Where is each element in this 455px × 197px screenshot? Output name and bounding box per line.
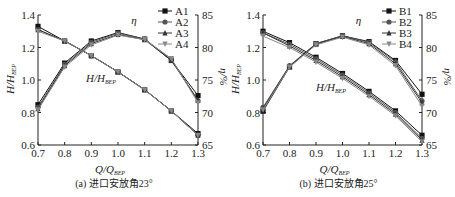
y-right-tick-label: 85 xyxy=(202,9,214,21)
y-left-tick-label: 1.4 xyxy=(21,9,35,21)
circle-marker xyxy=(162,19,167,24)
y-left-tick-label: 1.4 xyxy=(246,9,260,21)
panel-caption: (a) 进口安放角23° xyxy=(75,177,153,190)
x-tick-label: 1.1 xyxy=(138,147,152,159)
triangle-down-marker xyxy=(195,100,200,106)
y-left-tick-label: 1.0 xyxy=(21,74,35,86)
chart-panel-a: 0.70.80.91.01.11.21.30.60.81.01.21.46570… xyxy=(4,5,230,190)
y-left-tick-label: 0.8 xyxy=(21,107,35,119)
square-marker xyxy=(162,8,167,13)
x-tick-label: 1.0 xyxy=(336,147,350,159)
chart-panel-b: 0.70.80.91.01.11.21.30.60.81.01.21.46570… xyxy=(229,5,454,190)
x-tick-label: 0.9 xyxy=(84,147,98,159)
eta-annotation: η xyxy=(131,14,136,26)
legend: B1B2B3B4 xyxy=(382,5,412,50)
y-right-tick-label: 80 xyxy=(426,42,438,54)
square-marker xyxy=(386,8,391,13)
y-left-axis-label: H/HBEP xyxy=(4,64,17,95)
head-annotation: H/HBEP xyxy=(85,72,116,85)
y-right-tick-label: 80 xyxy=(202,42,214,54)
y-right-tick-label: 85 xyxy=(426,9,438,21)
y-right-tick-label: 65 xyxy=(426,139,438,151)
head-curve-A1 xyxy=(38,26,198,133)
x-tick-label: 0.8 xyxy=(58,147,72,159)
legend-item-B4: B4 xyxy=(399,38,412,50)
triangle-down-marker xyxy=(419,103,424,109)
head-annotation: H/HBEP xyxy=(315,81,346,94)
y-right-tick-label: 75 xyxy=(202,74,214,86)
head-curve-A4 xyxy=(38,31,198,135)
head-curve-A3 xyxy=(38,30,198,136)
y-right-tick-label: 70 xyxy=(426,107,438,119)
x-tick-label: 1.1 xyxy=(362,147,376,159)
y-right-tick-label: 75 xyxy=(426,74,438,86)
legend-item-A4: A4 xyxy=(175,38,189,50)
y-left-tick-label: 1.0 xyxy=(246,74,260,86)
y-right-tick-label: 70 xyxy=(202,107,214,119)
x-tick-label: 0.8 xyxy=(283,147,297,159)
y-left-tick-label: 1.2 xyxy=(246,42,260,54)
y-right-axis-label: η/% xyxy=(442,68,454,86)
y-left-tick-label: 0.6 xyxy=(246,139,260,151)
figure-canvas: 0.70.80.91.01.11.21.30.60.81.01.21.46570… xyxy=(0,0,455,197)
y-left-tick-label: 0.8 xyxy=(246,107,260,119)
head-curve-A2 xyxy=(38,30,198,136)
x-axis-label: Q/QBEP xyxy=(95,163,125,176)
panel-caption: (b) 进口安放角25° xyxy=(299,177,377,190)
circle-marker xyxy=(386,19,391,24)
legend: A1A2A3A4 xyxy=(158,5,189,50)
x-tick-label: 1.2 xyxy=(164,147,178,159)
y-right-tick-label: 65 xyxy=(202,139,214,151)
square-marker xyxy=(419,92,424,97)
x-tick-label: 1.2 xyxy=(389,147,403,159)
eta-annotation: η xyxy=(356,14,361,26)
x-axis-label: Q/QBEP xyxy=(320,163,350,176)
x-tick-label: 1.0 xyxy=(111,147,125,159)
x-tick-label: 0.9 xyxy=(309,147,323,159)
y-left-tick-label: 1.2 xyxy=(21,42,35,54)
y-left-tick-label: 0.6 xyxy=(21,139,35,151)
